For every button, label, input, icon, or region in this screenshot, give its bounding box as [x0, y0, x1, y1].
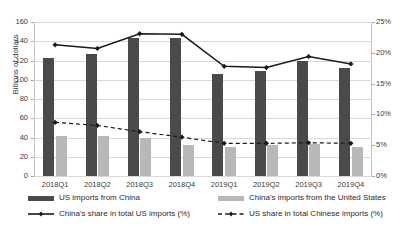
legend-swatch-light-bar — [218, 196, 244, 201]
y-axis-left-tick-label: 100 — [2, 76, 28, 84]
y-axis-right-tick-mark — [372, 145, 375, 146]
legend-label: US share in total Chinese imports (%) — [249, 209, 383, 219]
legend-item-china-imports-from-us[interactable]: China's imports from the United States — [218, 193, 386, 203]
line-marker — [348, 141, 353, 146]
y-axis-left-tick-label: 0 — [2, 172, 28, 180]
line-marker — [95, 46, 100, 51]
chart-container: Billions of dollars 02040608010012014016… — [0, 0, 409, 237]
y-axis-right-tick-mark — [372, 176, 375, 177]
line-marker — [306, 54, 311, 59]
x-axis-tick-label: 2019Q4 — [330, 180, 372, 189]
y-axis-right-tick-label: 25% — [376, 18, 406, 26]
line-marker — [53, 120, 58, 125]
y-axis-left-tick-label: 80 — [2, 95, 28, 103]
y-axis-right-tick-mark — [372, 22, 375, 23]
legend-label: US imports from China — [59, 193, 140, 203]
y-axis-left-tick-label: 20 — [2, 153, 28, 161]
x-axis-tick-label: 2018Q2 — [76, 180, 118, 189]
y-axis-right-tick-mark — [372, 53, 375, 54]
line-marker — [306, 140, 311, 145]
y-axis-left-tick-label: 120 — [2, 57, 28, 65]
y-axis-right-tick-label: 0% — [376, 172, 406, 180]
y-axis-left-tick-mark — [31, 176, 34, 177]
legend-swatch-dark-bar — [28, 196, 54, 201]
legend-label: China's share in total US imports (%) — [59, 209, 190, 219]
line-marker — [53, 42, 58, 47]
line-marker — [348, 61, 353, 66]
chart-legend: US imports from China China's imports fr… — [0, 193, 409, 235]
y-axis-right-tick-mark — [372, 114, 375, 115]
x-axis-tick-label: 2018Q3 — [119, 180, 161, 189]
y-axis-right-tick-label: 5% — [376, 141, 406, 149]
y-axis-title: Billions of dollars — [11, 10, 20, 120]
legend-label: China's imports from the United States — [249, 193, 386, 203]
y-axis-left-tick-label: 60 — [2, 114, 28, 122]
line-marker — [222, 141, 227, 146]
line-marker — [95, 123, 100, 128]
line-marker — [264, 65, 269, 70]
legend-swatch-solid-line — [28, 210, 54, 218]
line-marker — [137, 31, 142, 36]
x-axis-tick-label: 2019Q1 — [203, 180, 245, 189]
legend-item-us-imports-from-china[interactable]: US imports from China — [28, 193, 140, 203]
x-axis-tick-label: 2019Q2 — [245, 180, 287, 189]
line-marker — [137, 129, 142, 134]
y-axis-right-tick-label: 20% — [376, 49, 406, 57]
y-axis-left-tick-label: 160 — [2, 18, 28, 26]
legend-swatch-dashed-line — [218, 210, 244, 218]
y-axis-right-tick-label: 15% — [376, 80, 406, 88]
y-axis-left-tick-label: 140 — [2, 37, 28, 45]
line-series-layer — [34, 22, 372, 176]
legend-item-us-share-chinese-imports[interactable]: US share in total Chinese imports (%) — [218, 209, 383, 219]
line-china-share-us-imports — [55, 34, 351, 68]
line-marker — [179, 135, 184, 140]
y-axis-left-tick-label: 40 — [2, 134, 28, 142]
x-axis-tick-label: 2019Q3 — [288, 180, 330, 189]
gridline — [34, 176, 372, 177]
x-axis-tick-label: 2018Q4 — [161, 180, 203, 189]
y-axis-right-tick-mark — [372, 84, 375, 85]
legend-item-china-share-us-imports[interactable]: China's share in total US imports (%) — [28, 209, 190, 219]
x-axis-tick-label: 2018Q1 — [34, 180, 76, 189]
line-marker — [264, 141, 269, 146]
y-axis-right-tick-label: 10% — [376, 110, 406, 118]
